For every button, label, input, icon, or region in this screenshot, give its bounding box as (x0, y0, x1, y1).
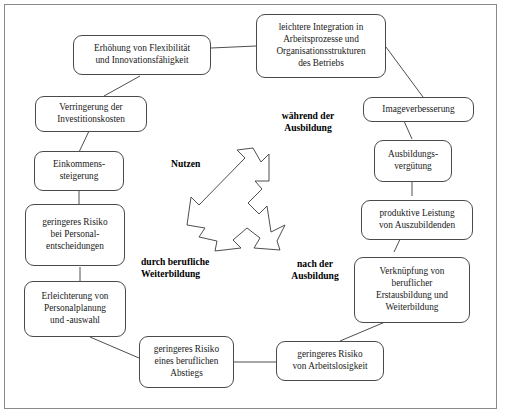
node-ausbildungsverguetung[interactable]: Ausbildungs- vergütung (374, 140, 452, 182)
center-label-waehrend-der-ausbildung: während der Ausbildung (253, 110, 363, 135)
node-label: Imageverbesserung (382, 104, 454, 116)
node-geringeres-risiko-personalentscheidungen[interactable]: geringeres Risiko bei Personal- entschei… (25, 204, 125, 266)
node-label: Verknüpfung von beruflicher Erstausbildu… (376, 266, 448, 314)
node-label: produktive Leistung von Auszubildenden (379, 208, 455, 232)
node-erhoehung-flexibilitaet[interactable]: Erhöhung von Flexibilität und Innovation… (73, 35, 211, 75)
node-label: geringeres Risiko bei Personal- entschei… (42, 217, 107, 253)
node-leichtere-integration[interactable]: leichtere Integration in Arbeitsprozesse… (256, 14, 386, 78)
node-einkommenssteigerung[interactable]: Einkommens- steigerung (34, 151, 124, 191)
node-label: Ausbildungs- vergütung (388, 149, 438, 173)
node-label: geringeres Risiko von Arbeitslosigkeit (292, 349, 367, 373)
node-label: Verringerung der Investitionskosten (57, 102, 125, 126)
node-label: Einkommens- steigerung (53, 159, 105, 183)
node-verringerung-investitionskosten[interactable]: Verringerung der Investitionskosten (35, 96, 147, 132)
node-erleichterung-personalplanung[interactable]: Erleichterung von Personalplanung und -a… (24, 281, 126, 337)
center-label-nutzen: Nutzen (171, 158, 200, 170)
node-label: geringeres Risiko eines beruflichen Abst… (154, 344, 219, 380)
three-way-arrow-icon (185, 145, 305, 257)
node-verknuepfung-erstausbildung[interactable]: Verknüpfung von beruflicher Erstausbildu… (354, 257, 470, 323)
node-imageverbesserung[interactable]: Imageverbesserung (363, 97, 474, 122)
diagram-canvas: Nutzen während der Ausbildung nach der A… (0, 0, 505, 416)
node-label: Erleichterung von Personalplanung und -a… (42, 291, 109, 327)
node-geringeres-risiko-abstieg[interactable]: geringeres Risiko eines beruflichen Abst… (139, 336, 234, 388)
node-label: leichtere Integration in Arbeitsprozesse… (276, 22, 365, 70)
node-geringeres-risiko-arbeitslosigkeit[interactable]: geringeres Risiko von Arbeitslosigkeit (276, 341, 384, 381)
node-label: Erhöhung von Flexibilität und Innovation… (94, 43, 190, 67)
center-label-durch-berufliche-weiterbildung: durch berufliche Weiterbildung (141, 256, 271, 281)
center-label-nach-der-ausbildung: nach der Ausbildung (270, 258, 360, 283)
node-produktive-leistung[interactable]: produktive Leistung von Auszubildenden (361, 200, 473, 240)
